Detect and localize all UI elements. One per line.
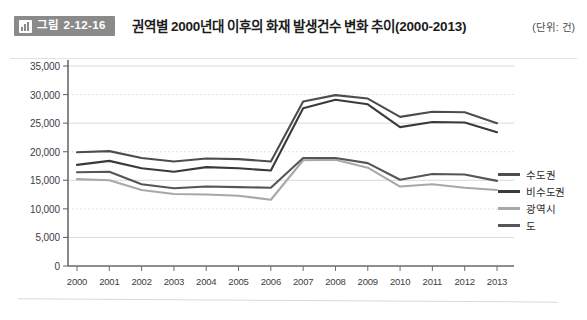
figure-panel: 그림 2-12-16 권역별 2000년대 이후의 화재 발생건수 변화 추이(…	[0, 0, 587, 320]
legend-label: 광역시	[526, 201, 555, 216]
y-axis-tick-label: 35,000	[8, 61, 60, 72]
x-axis-tick-label: 2002	[125, 276, 159, 287]
line-chart: 05,00010,00015,00020,00025,00030,00035,0…	[0, 46, 587, 296]
bar-chart-icon	[19, 20, 32, 33]
unit-label: (단위: 건)	[532, 19, 575, 34]
y-axis-tick-label: 25,000	[8, 118, 60, 129]
footer-divider	[18, 298, 558, 302]
legend-item[interactable]: 수도권	[498, 166, 565, 183]
y-axis-tick-label: 30,000	[8, 89, 60, 100]
chart-legend: 수도권비수도권광역시도	[498, 166, 565, 234]
x-axis-tick-label: 2003	[157, 276, 191, 287]
legend-label: 수도권	[526, 167, 555, 182]
x-axis-tick-label: 2013	[480, 276, 514, 287]
y-axis-tick-label: 20,000	[8, 146, 60, 157]
x-axis-tick-label: 2000	[60, 276, 94, 287]
x-axis-tick-label: 2005	[222, 276, 256, 287]
page-title: 권역별 2000년대 이후의 화재 발생건수 변화 추이(2000-2013)	[132, 15, 466, 35]
x-axis-tick-label: 2009	[351, 276, 385, 287]
x-axis-tick-label: 2004	[189, 276, 223, 287]
x-axis-tick-label: 2006	[254, 276, 288, 287]
legend-color-swatch	[498, 173, 520, 176]
legend-item[interactable]: 비수도권	[498, 183, 565, 200]
legend-label: 비수도권	[526, 184, 565, 199]
figure-header: 그림 2-12-16 권역별 2000년대 이후의 화재 발생건수 변화 추이(…	[0, 14, 587, 46]
x-axis-tick-label: 2007	[286, 276, 320, 287]
legend-color-swatch	[498, 190, 520, 193]
y-axis-tick-label: 0	[8, 261, 60, 272]
legend-label: 도	[526, 218, 536, 233]
legend-item[interactable]: 도	[498, 217, 565, 234]
legend-item[interactable]: 광역시	[498, 200, 565, 217]
figure-number-label: 그림 2-12-16	[37, 20, 106, 32]
x-axis-tick-label: 2008	[318, 276, 352, 287]
legend-color-swatch	[498, 207, 520, 210]
figure-number-badge: 그림 2-12-16	[14, 16, 115, 36]
y-axis-tick-label: 15,000	[8, 175, 60, 186]
y-axis-tick-label: 5,000	[8, 232, 60, 243]
x-axis-tick-label: 2001	[92, 276, 126, 287]
legend-color-swatch	[498, 224, 520, 227]
y-axis-tick-label: 10,000	[8, 203, 60, 214]
x-axis-tick-label: 2011	[415, 276, 449, 287]
x-axis-tick-label: 2010	[383, 276, 417, 287]
x-axis-tick-label: 2012	[448, 276, 482, 287]
